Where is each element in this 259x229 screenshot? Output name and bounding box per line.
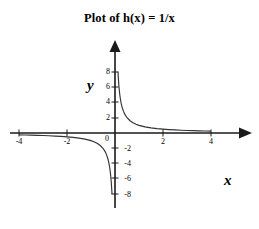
x-tick-label: -4 bbox=[12, 138, 26, 146]
x-axis-arrow-icon bbox=[239, 128, 252, 139]
y-tick-label: -2 bbox=[117, 145, 131, 153]
y-tick-label: -4 bbox=[117, 160, 131, 168]
y-axis-arrow-icon bbox=[110, 40, 121, 52]
chart-page: Plot of h(x) = 1/x bbox=[0, 0, 259, 229]
y-tick-label: -8 bbox=[117, 191, 131, 199]
page-title: Plot of h(x) = 1/x bbox=[0, 11, 259, 26]
y-tick-label: 6 bbox=[96, 83, 110, 91]
x-tick-label: -2 bbox=[60, 138, 74, 146]
plot-area: y x -4 -2 0 2 4 8 6 4 2 -2 -4 -6 -8 bbox=[0, 28, 259, 218]
curve-branch-positive bbox=[118, 72, 211, 131]
x-tick-label: 4 bbox=[204, 138, 218, 146]
x-tick-label: 2 bbox=[156, 138, 170, 146]
x-tick-label-origin: 0 bbox=[100, 135, 114, 143]
y-tick-label: 2 bbox=[96, 114, 110, 122]
y-tick-label: -6 bbox=[117, 175, 131, 183]
y-tick-label: 4 bbox=[96, 98, 110, 106]
x-axis-label: x bbox=[224, 173, 232, 188]
y-tick-label: 8 bbox=[96, 68, 110, 76]
y-axis-label: y bbox=[87, 78, 94, 93]
